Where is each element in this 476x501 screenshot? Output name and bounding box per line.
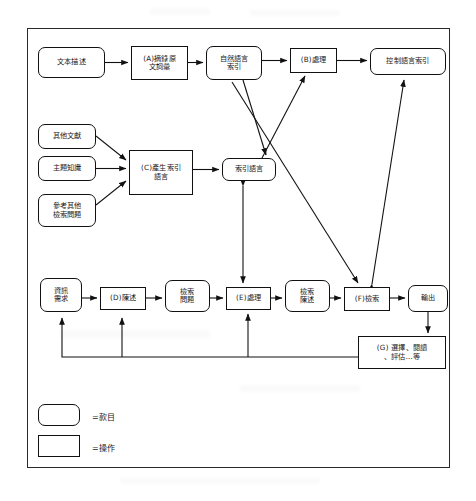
node-other_docs: 其他文獻 xyxy=(38,124,96,149)
node-label: 自然語言索引 xyxy=(220,55,249,72)
node-ref_other_q: 參考其他檢索問題 xyxy=(38,194,96,227)
node-ctrl_index: 控制語言索引 xyxy=(370,48,446,75)
node-label: 檢索陳述 xyxy=(300,288,314,305)
node-nl_index: 自然語言索引 xyxy=(206,46,262,80)
node-f_retrieve: (F)檢索 xyxy=(344,287,390,311)
node-index_lang: 索引語言 xyxy=(222,158,276,181)
node-label: 參考其他檢索問題 xyxy=(53,202,82,219)
diagram-canvas: 文本描述(A)摘錄原文詞彙自然語言索引(B)處理控制語言索引其他文獻主題知識參考… xyxy=(0,0,476,501)
node-label: (A)摘錄原文詞彙 xyxy=(143,55,176,72)
node-b_process: (B)處理 xyxy=(290,48,337,73)
node-output: 輸出 xyxy=(408,285,448,312)
node-c_gen_lang: (C)產生索引語言 xyxy=(129,150,193,195)
node-label: (C)產生索引語言 xyxy=(141,164,181,181)
node-a_extract: (A)摘錄原文詞彙 xyxy=(131,46,188,80)
node-text_desc: 文本描述 xyxy=(38,47,105,78)
legend-label-entry: =款目 xyxy=(92,411,115,422)
node-search_stmt: 檢索陳述 xyxy=(285,280,330,312)
node-label: 控制語言索引 xyxy=(386,57,429,65)
node-info_need: 資訊需求 xyxy=(40,278,82,312)
node-label: 文本描述 xyxy=(57,58,86,66)
node-d_state: (D)陳述 xyxy=(100,287,146,310)
node-label: (B)處理 xyxy=(301,56,327,64)
legend-swatch-operation xyxy=(38,435,80,457)
node-topic_know: 主題知識 xyxy=(38,156,96,181)
node-label: 其他文獻 xyxy=(53,132,82,140)
node-label: (E)處理 xyxy=(236,294,261,302)
node-label: (D)陳述 xyxy=(110,294,136,302)
node-search_q: 檢索問題 xyxy=(165,280,210,312)
node-label: 主題知識 xyxy=(53,164,82,172)
node-label: 輸出 xyxy=(421,294,435,302)
node-e_process: (E)處理 xyxy=(226,287,271,310)
diagram-outer-frame xyxy=(27,28,450,468)
node-label: 檢索問題 xyxy=(180,288,194,305)
node-g_select: (G) 選擇、閱讀、評估…等 xyxy=(358,336,446,369)
legend-swatch-entry xyxy=(38,404,80,426)
legend-label-operation: =操作 xyxy=(92,442,115,453)
node-label: 資訊需求 xyxy=(54,287,68,304)
node-label: 索引語言 xyxy=(235,165,264,173)
node-label: (F)檢索 xyxy=(355,295,380,303)
node-label: (G) 選擇、閱讀、評估…等 xyxy=(377,344,427,361)
